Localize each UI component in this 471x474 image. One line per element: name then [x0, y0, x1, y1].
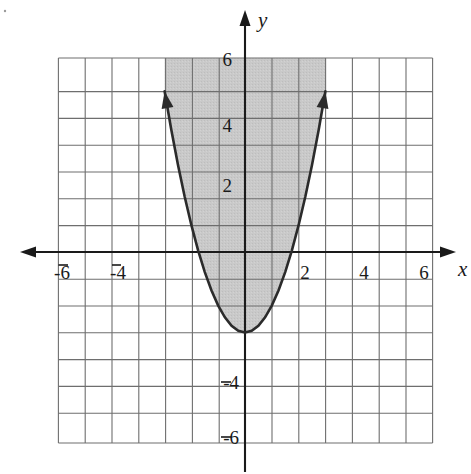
- y-tick-label--6: -6: [223, 427, 239, 448]
- x-tick-label-2: 2: [300, 262, 310, 283]
- x-tick-label-6: 6: [419, 262, 429, 283]
- graph-figure: y x -6 -4 2 4 6 6 4 2 -4 -6: [0, 0, 471, 474]
- x-tick-label--4: -4: [110, 262, 126, 283]
- scan-speck: [4, 10, 6, 12]
- x-tick-label-4: 4: [359, 262, 369, 283]
- coordinate-plane-svg: y x -6 -4 2 4 6 6 4 2 -4 -6: [0, 0, 471, 474]
- x-axis-label: x: [457, 257, 468, 281]
- y-axis-label: y: [256, 8, 268, 32]
- x-tick-label--6: -6: [54, 262, 70, 283]
- y-tick-label-4: 4: [223, 115, 233, 136]
- y-tick-label-6: 6: [223, 49, 233, 70]
- y-tick-label--4: -4: [223, 372, 239, 393]
- y-tick-label-2: 2: [223, 175, 233, 196]
